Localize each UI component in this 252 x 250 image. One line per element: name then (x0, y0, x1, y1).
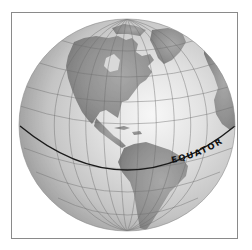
globe-diagram: EQUATOR (0, 0, 252, 250)
